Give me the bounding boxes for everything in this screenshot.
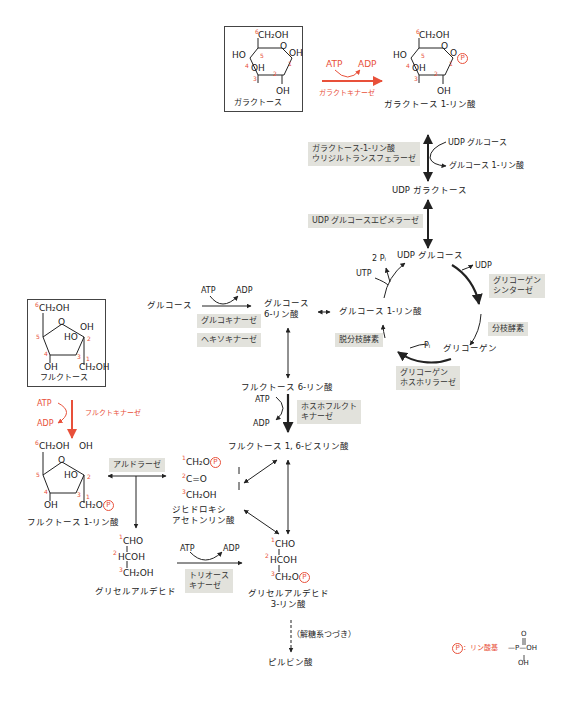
carbon-number: 2 [434, 70, 438, 77]
fructose-6-phosphate: フルクトース 6-リン酸 [241, 382, 333, 393]
carbon-number: 3 [414, 75, 418, 82]
galactokinase-adp: ADP [358, 59, 377, 70]
carbon-number: 3 [77, 491, 81, 498]
carbon-number: 1 [86, 355, 90, 362]
phosphate-legend: P：リン酸基 [452, 642, 498, 654]
galactose-label: ガラクトース [234, 97, 282, 108]
carbon-number: 4 [44, 350, 48, 357]
carbon-number: 6 [35, 439, 39, 446]
dhap-c2: C=O [186, 474, 207, 485]
carbon-number: 6 [255, 28, 259, 35]
phosphate-symbol: P [103, 500, 114, 511]
formula-oh: OH [518, 659, 529, 667]
dhap-c3: CH₂OH [186, 490, 217, 501]
gal1p-c6: CH₂OH [419, 30, 450, 41]
fructose-c6: CH₂OH [39, 303, 70, 314]
galactose-oh1: OH [289, 48, 303, 59]
pfk-adp: ADP [253, 418, 269, 429]
carbon-number: 5 [36, 471, 40, 478]
galactose-ring-o: O [280, 41, 287, 52]
carbon-number: 1 [182, 454, 186, 461]
glucose-1-phosphate: グルコース 1-リン酸 [339, 306, 422, 317]
gal1p-oh3: OH [412, 63, 426, 74]
branching-enzyme: 分枝酵素 [488, 322, 528, 336]
gal1p-ho4: HO [393, 50, 407, 61]
f1p-ring-o: O [58, 455, 65, 466]
fructokinase-adp: ADP [37, 418, 53, 429]
formula-o: O [521, 630, 527, 638]
udp-glucose-in: UDP グルコース [448, 137, 507, 148]
gal1p-ring-o: O [441, 41, 448, 52]
f1p-c1: CH₂OP [79, 500, 114, 511]
glycogen-phosphorylase-enzyme: グリコーゲン ホスホリラーゼ [396, 366, 460, 390]
carbon-number: 3 [119, 566, 123, 573]
glucose-6-phosphate: グルコース 6-リン酸 [264, 298, 309, 320]
glycogen-synthase-enzyme: グリコーゲン シンターゼ [489, 274, 545, 298]
triokinase-adp: ADP [223, 543, 239, 554]
carbon-number: 3 [271, 570, 275, 577]
utp: UTP [356, 268, 372, 279]
fructose-1-phosphate-label: フルクトース 1-リン酸 [27, 517, 119, 528]
carbon-number: 2 [265, 552, 269, 559]
glyceraldehyde-c3: CH₂OH [123, 568, 154, 579]
two-pi: 2 Pᵢ [372, 253, 386, 264]
carbon-number: 1 [271, 536, 275, 543]
carbon-number: 6 [416, 28, 420, 35]
udp-out: UDP [475, 260, 492, 271]
hexokinase-enzyme: ヘキソキナーゼ [197, 333, 261, 347]
fructose-ho3: HO [64, 332, 78, 343]
galactokinase-atp: ATP [326, 59, 342, 70]
fructose-oh2: OH [80, 322, 94, 333]
carbon-number: 5 [421, 52, 425, 59]
carbon-number: 2 [273, 70, 277, 77]
f1p-oh2: OH [79, 441, 93, 452]
debranching-enzyme: 脱分枝酵素 [335, 333, 383, 347]
udp-glucose: UDP グルコース [397, 250, 463, 261]
pi-in: Pᵢ [424, 340, 430, 351]
epimerase-enzyme: UDP グルコースエピメラーゼ [308, 214, 423, 228]
carbon-number: 1 [119, 533, 123, 540]
gal1p-oh2: OH [437, 86, 451, 97]
carbon-number: 3 [182, 488, 186, 495]
aldolase-enzyme: アルドラーゼ [109, 458, 165, 472]
f1p-c6: CH₂OH [39, 441, 70, 452]
carbon-number: 2 [113, 549, 117, 556]
galactokinase-enzyme: ガラクトキナーゼ [319, 88, 375, 99]
carbon-number: 4 [245, 62, 249, 69]
phosphate-symbol: P [457, 48, 468, 67]
fructose-1-6-bisphosphate: フルクトース 1, 6-ビスリン酸 [228, 441, 349, 452]
carbon-number: 1 [288, 60, 292, 67]
dhap-c1: CH₂OP [186, 457, 221, 468]
galactose-oh2: OH [276, 86, 290, 97]
carbon-number: 1 [449, 60, 453, 67]
carbon-number: 2 [182, 472, 186, 479]
glycogen: グリコーゲン [443, 343, 497, 354]
glyceraldehyde-label: グリセルアルデヒド [95, 586, 176, 597]
phosphate-symbol: P [299, 572, 310, 583]
phosphate-symbol: P [210, 457, 221, 468]
carbon-number: 5 [36, 333, 40, 340]
carbon-number: 4 [44, 488, 48, 495]
carbon-number: 3 [253, 75, 257, 82]
glycolysis-continued-note: （解糖系つづき） [292, 629, 356, 640]
fructokinase-atp: ATP [37, 398, 52, 409]
carbon-number: 4 [406, 62, 410, 69]
uridyltransferase-enzyme: ガラクトース-1-リン酸 ウリジルトランスフェラーゼ [308, 142, 420, 166]
triokinase-atp: ATP [180, 543, 195, 554]
triokinase-enzyme: トリオース キナーゼ [185, 569, 233, 593]
gap-c1: CHO [275, 539, 295, 550]
legend-label: ：リン酸基 [463, 644, 498, 652]
glyceraldehyde-c1: CHO [123, 536, 143, 547]
dhap-label: ジヒドロキシ アセトンリン酸 [172, 504, 235, 526]
galactose-c6: CH₂OH [258, 30, 289, 41]
phosphate-symbol: P [452, 643, 463, 654]
galactose-ho4: HO [232, 50, 246, 61]
glucose-1p-out: グルコース 1-リン酸 [449, 160, 524, 171]
glucokinase-enzyme: グルコキナーゼ [197, 314, 261, 328]
gap-c3: CH₂OP [275, 572, 310, 583]
phosphofructokinase-enzyme: ホスホフルクト キナーゼ [297, 400, 361, 424]
glucose: グルコース [147, 300, 192, 311]
glyceraldehyde-c2: HCOH [118, 552, 145, 563]
gap-c2: HCOH [270, 555, 297, 566]
hk-adp: ADP [236, 285, 252, 296]
